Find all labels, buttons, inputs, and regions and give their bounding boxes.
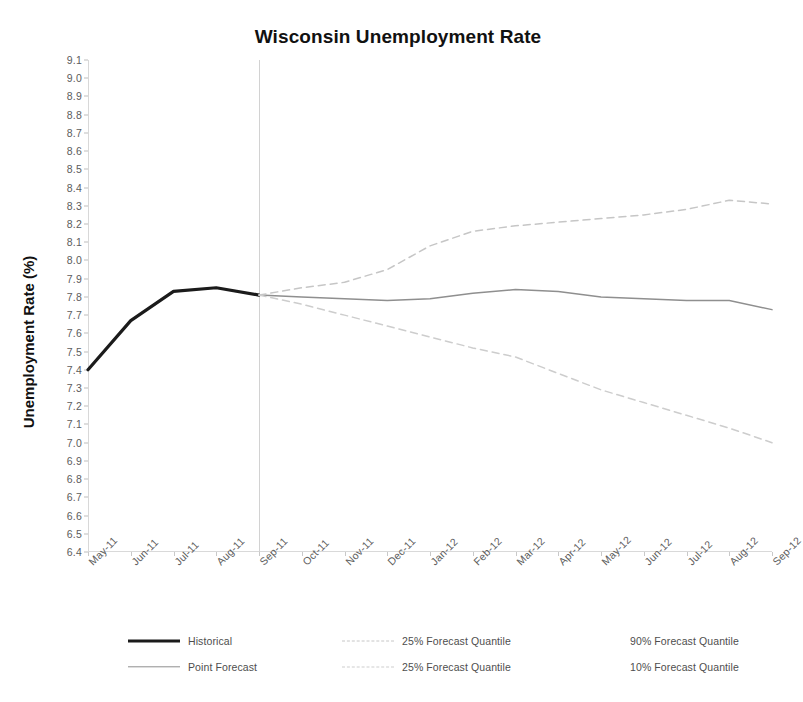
legend-label: Historical (188, 635, 232, 647)
y-axis-tick-label: 6.8 (67, 473, 82, 485)
legend-item[interactable]: 25% Forecast Quantile (342, 635, 570, 647)
y-axis-tick-label: 6.6 (67, 510, 82, 522)
x-axis-tick-mark (88, 552, 89, 556)
legend-item[interactable]: Historical (128, 635, 342, 647)
y-axis-tick-label: 7.4 (67, 364, 82, 376)
y-axis-tick-label: 8.7 (67, 127, 82, 139)
legend-item[interactable]: Point Forecast (128, 661, 342, 673)
y-axis-tick-label: 7.5 (67, 346, 82, 358)
y-axis-tick-label: 7.8 (67, 291, 82, 303)
y-axis-title-label: Unemployment Rate (%) (20, 222, 37, 462)
x-axis-tick-mark (558, 552, 559, 556)
x-axis-tick-mark (302, 552, 303, 556)
y-axis-tick-label: 8.9 (67, 90, 82, 102)
x-axis-tick-mark (387, 552, 388, 556)
series-line (259, 290, 772, 310)
x-axis-tick-mark (772, 552, 773, 556)
y-axis-tick-label: 7.1 (67, 418, 82, 430)
y-axis-tick-label: 6.7 (67, 491, 82, 503)
x-axis-tick-mark (174, 552, 175, 556)
series-lines (88, 60, 772, 552)
x-axis-tick-mark (601, 552, 602, 556)
legend-label: Point Forecast (188, 661, 257, 673)
x-axis-tick-mark (216, 552, 217, 556)
series-line (259, 200, 772, 295)
y-axis-tick-label: 9.1 (67, 54, 82, 66)
y-axis-tick-label: 8.8 (67, 109, 82, 121)
legend-swatch-icon (128, 636, 180, 646)
y-axis-tick-label: 8.1 (67, 236, 82, 248)
x-axis-tick-mark (687, 552, 688, 556)
y-axis-tick-label: 7.0 (67, 437, 82, 449)
chart-legend: Historical25% Forecast Quantile90% Forec… (128, 628, 748, 680)
legend-swatch-icon (342, 636, 394, 646)
legend-item[interactable]: 25% Forecast Quantile (342, 661, 570, 673)
y-axis-tick-label: 6.4 (67, 546, 82, 558)
y-axis-tick-label: 7.3 (67, 382, 82, 394)
y-axis-tick-label: 7.6 (67, 327, 82, 339)
y-axis-tick-label: 7.2 (67, 400, 82, 412)
y-axis-tick-label: 8.5 (67, 163, 82, 175)
y-axis-tick-label: 8.3 (67, 200, 82, 212)
y-axis-tick-label: 9.0 (67, 72, 82, 84)
y-axis-tick-label: 7.7 (67, 309, 82, 321)
y-axis-tick-label: 8.4 (67, 182, 82, 194)
legend-label: 25% Forecast Quantile (402, 661, 511, 673)
legend-swatch-icon (570, 662, 622, 672)
legend-label: 10% Forecast Quantile (630, 661, 739, 673)
x-axis-tick-mark (345, 552, 346, 556)
chart-title: Wisconsin Unemployment Rate (0, 26, 796, 48)
legend-swatch-icon (570, 636, 622, 646)
y-axis-tick-label: 8.0 (67, 254, 82, 266)
y-axis-tick-label: 6.5 (67, 528, 82, 540)
legend-row: Point Forecast25% Forecast Quantile10% F… (128, 654, 748, 680)
series-line (259, 295, 772, 443)
legend-item[interactable]: 10% Forecast Quantile (570, 661, 739, 673)
legend-swatch-icon (342, 662, 394, 672)
series-line (88, 288, 259, 370)
y-axis-tick-label: 6.9 (67, 455, 82, 467)
x-axis-tick-mark (259, 552, 260, 556)
x-axis-tick-mark (131, 552, 132, 556)
x-axis-tick-label: Sep-12 (770, 534, 803, 567)
y-axis-tick-label: 7.9 (67, 273, 82, 285)
x-axis-tick-mark (644, 552, 645, 556)
legend-item[interactable]: 90% Forecast Quantile (570, 635, 739, 647)
legend-row: Historical25% Forecast Quantile90% Forec… (128, 628, 748, 654)
legend-label: 90% Forecast Quantile (630, 635, 739, 647)
y-axis-tick-label: 8.6 (67, 145, 82, 157)
plot-area: 9.19.08.98.88.78.68.58.48.38.28.18.07.97… (88, 60, 772, 552)
legend-swatch-icon (128, 662, 180, 672)
y-axis-tick-label: 8.2 (67, 218, 82, 230)
x-axis-tick-mark (729, 552, 730, 556)
x-axis-tick-mark (430, 552, 431, 556)
x-axis-tick-mark (516, 552, 517, 556)
y-axis-title: Unemployment Rate (%) (20, 0, 37, 222)
x-axis-tick-mark (473, 552, 474, 556)
legend-label: 25% Forecast Quantile (402, 635, 511, 647)
